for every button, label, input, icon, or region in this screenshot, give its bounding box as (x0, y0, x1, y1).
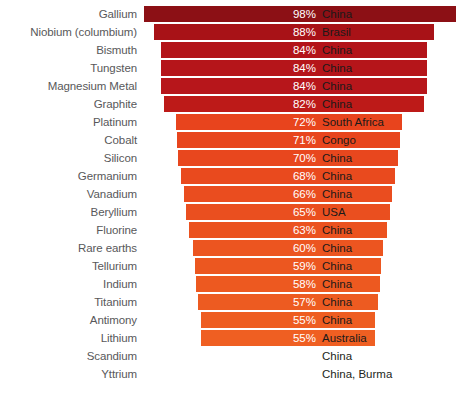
chart-row: Germanium68%China (0, 167, 464, 185)
chart-row: Cobalt71%Congo (0, 131, 464, 149)
country-label: China (322, 240, 352, 256)
value-label: 84% (256, 42, 316, 58)
country-label: China (322, 42, 352, 58)
value-label: 63% (256, 222, 316, 238)
chart-row: Beryllium65%USA (0, 203, 464, 221)
category-label: Tungsten (0, 59, 137, 77)
category-label: Niobium (columbium) (0, 23, 137, 41)
country-label: China (322, 276, 352, 292)
country-label: China (322, 60, 352, 76)
chart-row: Fluorine63%China (0, 221, 464, 239)
chart-row: Lithium55%Australia (0, 329, 464, 347)
chart-row: ScandiumChina (0, 347, 464, 365)
value-label: 66% (256, 186, 316, 202)
category-label: Scandium (0, 347, 137, 365)
value-label: 72% (256, 114, 316, 130)
category-label: Antimony (0, 311, 137, 329)
category-label: Indium (0, 275, 137, 293)
value-label: 84% (256, 78, 316, 94)
chart-row: Titanium57%China (0, 293, 464, 311)
chart-row: Rare earths60%China (0, 239, 464, 257)
value-label: 57% (256, 294, 316, 310)
category-label: Beryllium (0, 203, 137, 221)
chart-row: Tellurium59%China (0, 257, 464, 275)
category-label: Rare earths (0, 239, 137, 257)
category-label: Magnesium Metal (0, 77, 137, 95)
category-label: Bismuth (0, 41, 137, 59)
funnel-bar-chart: Gallium98%ChinaNiobium (columbium)88%Bra… (0, 0, 464, 400)
country-label: China (322, 258, 352, 274)
country-label: China (322, 6, 352, 22)
category-label: Silicon (0, 149, 137, 167)
value-label: 59% (256, 258, 316, 274)
value-label: 65% (256, 204, 316, 220)
country-label: China (322, 222, 352, 238)
value-label: 55% (256, 330, 316, 346)
value-label: 71% (256, 132, 316, 148)
country-label: China (322, 96, 352, 112)
value-label: 58% (256, 276, 316, 292)
country-label: China (322, 150, 352, 166)
value-label: 60% (256, 240, 316, 256)
chart-row: Graphite82%China (0, 95, 464, 113)
country-label: Congo (322, 132, 356, 148)
country-label: China (322, 294, 352, 310)
category-label: Fluorine (0, 221, 137, 239)
country-label: Brasil (322, 24, 351, 40)
chart-row: Magnesium Metal84%China (0, 77, 464, 95)
country-label: China (322, 168, 352, 184)
value-label: 98% (256, 6, 316, 22)
country-label: South Africa (322, 114, 384, 130)
chart-row: Antimony55%China (0, 311, 464, 329)
chart-row: Indium58%China (0, 275, 464, 293)
category-label: Germanium (0, 167, 137, 185)
value-label: 82% (256, 96, 316, 112)
country-label: China (322, 78, 352, 94)
chart-row: Tungsten84%China (0, 59, 464, 77)
country-label: China (322, 312, 352, 328)
chart-row: Niobium (columbium)88%Brasil (0, 23, 464, 41)
category-label: Titanium (0, 293, 137, 311)
category-label: Yttrium (0, 365, 137, 383)
category-label: Lithium (0, 329, 137, 347)
value-label: 88% (256, 24, 316, 40)
value-label: 55% (256, 312, 316, 328)
chart-row: Platinum72%South Africa (0, 113, 464, 131)
chart-row: Gallium98%China (0, 5, 464, 23)
country-label: Australia (322, 330, 367, 346)
category-label: Platinum (0, 113, 137, 131)
category-label: Graphite (0, 95, 137, 113)
value-label: 70% (256, 150, 316, 166)
chart-row: Vanadium66%China (0, 185, 464, 203)
country-label: China (322, 186, 352, 202)
value-label: 84% (256, 60, 316, 76)
category-label: Cobalt (0, 131, 137, 149)
category-label: Gallium (0, 5, 137, 23)
chart-row: Silicon70%China (0, 149, 464, 167)
country-label: USA (322, 204, 346, 220)
country-label: China (322, 348, 352, 364)
country-label: China, Burma (322, 366, 392, 382)
category-label: Tellurium (0, 257, 137, 275)
value-label: 68% (256, 168, 316, 184)
chart-row: YttriumChina, Burma (0, 365, 464, 383)
category-label: Vanadium (0, 185, 137, 203)
chart-row: Bismuth84%China (0, 41, 464, 59)
